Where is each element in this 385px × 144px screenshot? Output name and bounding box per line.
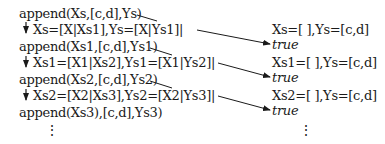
continuation-right: ⋮ — [299, 122, 313, 138]
result-true-0: true — [272, 37, 298, 53]
arrow-to-true — [218, 63, 270, 77]
base-case-0: Xs=[ ],Ys=[c,d] — [272, 22, 369, 38]
continuation-left: ⋮ — [45, 122, 59, 138]
goal-2: append(Xs2,[c,d],Ys2) — [19, 72, 158, 88]
unification-1: Xs1=[X1|Xs2],Ys1=[X1|Ys2]| — [33, 55, 215, 71]
unification-2: Xs2=[X2|Xs3],Ys2=[X2|Ys3]| — [33, 88, 215, 104]
unification-0: Xs=[X|Xs1],Ys=[X|Ys1]| — [33, 22, 183, 38]
result-true-1: true — [272, 70, 298, 86]
result-true-2: true — [272, 103, 298, 119]
arrow-to-true — [218, 96, 270, 110]
goal-3: append(Xs3),[c,d],Ys3) — [19, 105, 162, 121]
arrow-to-true — [197, 30, 270, 44]
base-case-1: Xs1=[ ],Ys=[c,d] — [272, 55, 377, 71]
base-case-2: Xs2=[ ],Ys=[c,d] — [272, 88, 377, 104]
goal-0: append(Xs,[c,d],Ys) — [19, 6, 142, 22]
goal-1: append(Xs1,[c,d],Ys1) — [19, 39, 158, 55]
